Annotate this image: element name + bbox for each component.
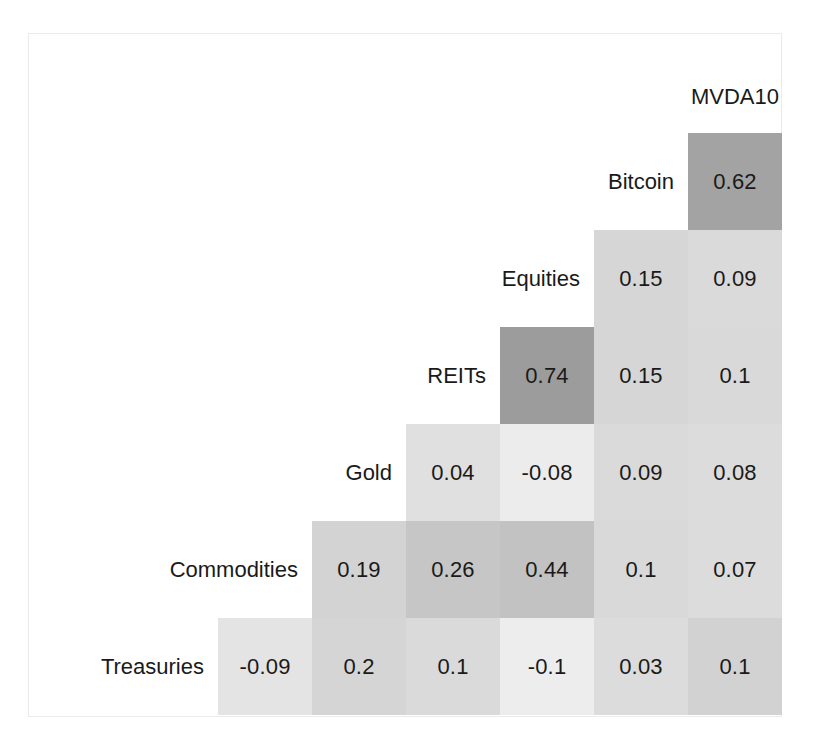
heatmap-cell: 0.03 xyxy=(594,618,688,715)
correlation-heatmap-figure: MVDA10Bitcoin0.62Equities0.150.09REITs0.… xyxy=(0,0,814,743)
row-label-gold: Gold xyxy=(216,424,406,521)
heatmap-cell: 0.1 xyxy=(594,521,688,618)
heatmap-cell: -0.08 xyxy=(500,424,594,521)
heatmap-cell: 0.15 xyxy=(594,230,688,327)
heatmap-cell: 0.1 xyxy=(688,327,782,424)
heatmap-cell: 0.08 xyxy=(688,424,782,521)
heatmap-cell: 0.1 xyxy=(688,618,782,715)
row-label-bitcoin: Bitcoin xyxy=(498,133,688,230)
heatmap-cell: -0.1 xyxy=(500,618,594,715)
heatmap-cell: 0.15 xyxy=(594,327,688,424)
row-label-commodities: Commodities xyxy=(122,521,312,618)
heatmap-cell: 0.44 xyxy=(500,521,594,618)
column-header-mvda10: MVDA10 xyxy=(688,82,782,112)
row-label-equities: Equities xyxy=(404,230,594,327)
heatmap-cell: 0.2 xyxy=(312,618,406,715)
heatmap-cell: 0.19 xyxy=(312,521,406,618)
heatmap-grid: MVDA10Bitcoin0.62Equities0.150.09REITs0.… xyxy=(0,0,814,743)
heatmap-cell: -0.09 xyxy=(218,618,312,715)
heatmap-cell: 0.74 xyxy=(500,327,594,424)
row-label-reits: REITs xyxy=(310,327,500,424)
heatmap-cell: 0.62 xyxy=(688,133,782,230)
heatmap-cell: 0.26 xyxy=(406,521,500,618)
heatmap-cell: 0.04 xyxy=(406,424,500,521)
row-label-treasuries: Treasuries xyxy=(28,618,218,715)
heatmap-cell: 0.09 xyxy=(594,424,688,521)
heatmap-cell: 0.09 xyxy=(688,230,782,327)
heatmap-cell: 0.07 xyxy=(688,521,782,618)
heatmap-cell: 0.1 xyxy=(406,618,500,715)
